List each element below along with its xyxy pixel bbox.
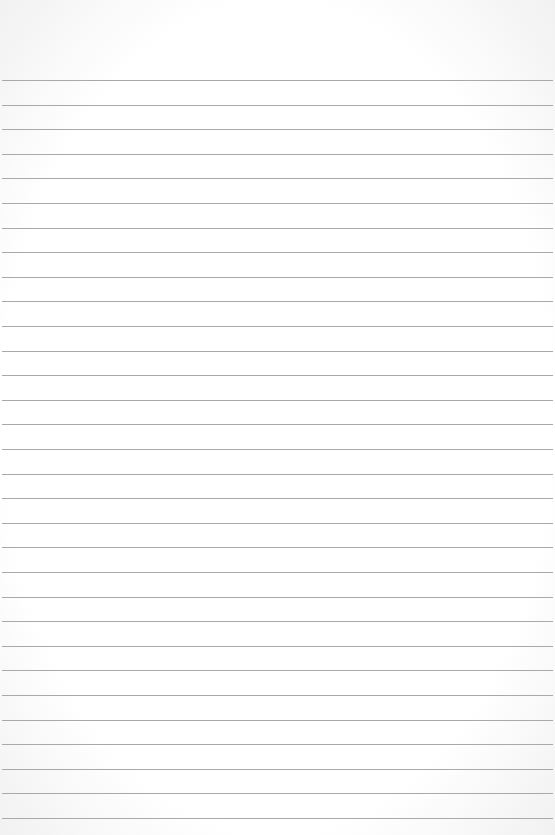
ruled-line [2, 449, 553, 450]
ruled-line [2, 547, 553, 548]
ruled-line [2, 105, 553, 106]
ruled-line [2, 351, 553, 352]
ruled-line [2, 818, 553, 819]
ruled-line [2, 474, 553, 475]
ruled-line [2, 769, 553, 770]
ruled-line [2, 523, 553, 524]
ruled-line [2, 326, 553, 327]
ruled-line [2, 228, 553, 229]
ruled-line [2, 80, 553, 81]
ruled-line [2, 252, 553, 253]
ruled-line [2, 695, 553, 696]
ruled-line [2, 597, 553, 598]
ruled-line [2, 400, 553, 401]
lined-paper-page [0, 0, 555, 835]
ruled-line [2, 793, 553, 794]
ruled-line [2, 744, 553, 745]
ruled-line [2, 621, 553, 622]
ruled-line [2, 277, 553, 278]
ruled-line [2, 646, 553, 647]
ruled-line [2, 154, 553, 155]
ruled-line [2, 498, 553, 499]
ruled-line [2, 424, 553, 425]
ruled-line [2, 670, 553, 671]
ruled-line [2, 203, 553, 204]
ruled-line [2, 720, 553, 721]
ruled-line [2, 572, 553, 573]
ruled-line [2, 129, 553, 130]
ruled-line [2, 301, 553, 302]
ruled-line [2, 178, 553, 179]
ruled-line [2, 375, 553, 376]
